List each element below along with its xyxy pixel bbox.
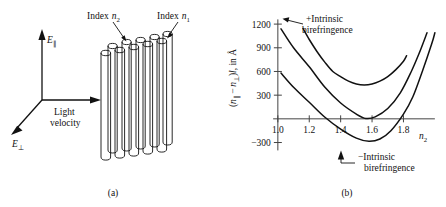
- light-velocity-label-line1: Light: [54, 107, 75, 117]
- chart-curve: [303, 28, 407, 84]
- annotation-minus-intrinsic: −Intrinsic birefringence: [338, 151, 415, 174]
- rod-bundle-icon: [101, 31, 172, 160]
- rod: [101, 50, 111, 160]
- annotation-plus-intrinsic: +Intrinsic birefringence: [283, 14, 353, 35]
- rod: [163, 31, 172, 145]
- arrow-up-icon: [38, 29, 45, 100]
- index-n2-label: Indexn2: [87, 11, 120, 23]
- rod-front-row: [101, 38, 167, 160]
- rod: [136, 37, 145, 149]
- rod: [150, 34, 159, 147]
- chart-axes: [273, 19, 435, 150]
- chart-curve: [281, 29, 427, 119]
- annotation-plus-line1: +Intrinsic: [306, 14, 343, 24]
- rod: [108, 43, 117, 153]
- x-tick-label: 1.6: [366, 125, 378, 135]
- rod: [115, 47, 125, 158]
- rod: [122, 39, 131, 151]
- annotation-plus-line2: birefringence: [302, 25, 353, 35]
- index-n1-label: Indexn1: [157, 11, 190, 23]
- y-tick-label: −300: [251, 138, 271, 148]
- panel-b-svg: −30030060090012001.01.21.41.61.8 (n∥−n⊥)…: [223, 0, 446, 207]
- e-parallel-label: E∥: [46, 35, 57, 48]
- panel-b-chart: −30030060090012001.01.21.41.61.8 (n∥−n⊥)…: [223, 0, 446, 207]
- light-velocity-label-line2: velocity: [50, 118, 81, 128]
- arrow-down-left-icon: [11, 100, 42, 135]
- leader-arrow-icon: [113, 22, 127, 42]
- y-tick-label: 300: [257, 91, 272, 101]
- y-tick-label: 900: [257, 43, 272, 53]
- x-tick-label: 1.8: [398, 125, 410, 135]
- rod: [157, 38, 167, 152]
- annotation-minus-line2: birefringence: [364, 163, 415, 173]
- chart-tick-labels: −30030060090012001.01.21.41.61.8: [251, 20, 409, 148]
- arrow-right-icon: [42, 96, 101, 103]
- rod-back-row: [108, 31, 172, 153]
- panel-b-caption: (b): [341, 188, 352, 199]
- x-axis-label: n2: [419, 131, 428, 143]
- figure-container: E∥ E⊥ Light velocity: [0, 0, 446, 207]
- rod: [143, 41, 153, 154]
- rod: [129, 44, 139, 156]
- y-axis-label: (n∥−n⊥)l, in Å: [227, 49, 241, 107]
- y-tick-label: 600: [257, 67, 272, 77]
- e-perpendicular-label: E⊥: [11, 139, 24, 151]
- x-tick-label: 1.2: [303, 125, 315, 135]
- panel-a-svg: E∥ E⊥ Light velocity: [0, 0, 223, 207]
- leader-arrow-up-icon: [338, 151, 355, 164]
- panel-a-caption: (a): [108, 188, 119, 199]
- y-tick-label: 1200: [252, 20, 271, 30]
- x-tick-label: 1.0: [272, 125, 284, 135]
- panel-a-diagram: E∥ E⊥ Light velocity: [0, 0, 223, 207]
- annotation-minus-line1: −Intrinsic: [358, 152, 395, 162]
- leader-arrow-left-icon: [283, 17, 304, 24]
